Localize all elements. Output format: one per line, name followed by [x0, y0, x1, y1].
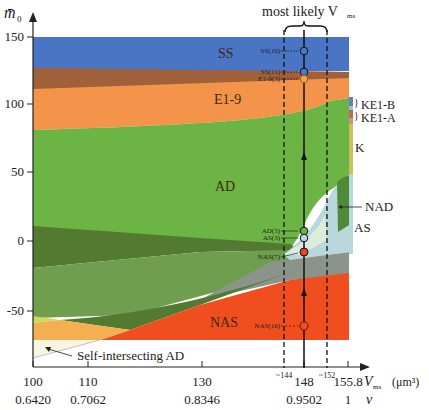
region-label-e1-9: E1-9 — [214, 92, 241, 107]
x-tick-label: 100 — [23, 374, 43, 389]
x-ticks: 100 0.6420 110 0.7062 130 0.8346 148 0.9… — [15, 361, 363, 407]
most-likely-brace — [285, 21, 327, 32]
y-tick-label: 100 — [5, 96, 25, 111]
side-label-ke1a: KE1-A — [361, 111, 396, 125]
y-tick-label: 0 — [18, 233, 25, 248]
svg-text:NAS(10): NAS(10) — [254, 322, 280, 330]
strip-blue — [349, 97, 353, 106]
top-annotation-sub: ms — [347, 12, 355, 20]
x-tick-label: 130 — [192, 374, 212, 389]
dashed-marker-label: ~144 — [276, 371, 292, 380]
x-tick-label: 148 — [294, 374, 314, 389]
y-axis-label-sub: 0 — [17, 14, 22, 24]
side-label-as: AS — [354, 220, 371, 235]
top-annotation: most likely V — [262, 4, 338, 19]
strip-lightblue — [349, 106, 353, 110]
side-label-self-intersecting: Self-intersecting AD — [77, 348, 184, 363]
x-axis-unit: (μm³) — [392, 375, 419, 389]
region-label-nas: NAS — [210, 315, 238, 330]
nu-tick-label: 0.9502 — [286, 392, 322, 407]
strip-as — [349, 174, 353, 254]
strip-k — [349, 124, 353, 174]
side-label-ke1b: KE1-B — [361, 98, 395, 112]
region-nad — [337, 176, 349, 232]
nu-tick-label: 0.7062 — [70, 392, 106, 407]
nu-tick-label: 1 — [345, 392, 352, 407]
svg-text:SS(10): SS(10) — [261, 47, 281, 55]
region-label-ad: AD — [215, 179, 235, 194]
nu-axis-label: ν — [366, 392, 373, 407]
y-axis-label: m̄ — [4, 4, 16, 21]
nu-tick-label: 0.8346 — [184, 392, 220, 407]
dashed-marker-label: ~152 — [319, 371, 335, 380]
x-tick-label: 155.8 — [333, 374, 362, 389]
svg-text:E1-9(3): E1-9(3) — [258, 75, 280, 83]
svg-text:AS(3): AS(3) — [263, 234, 281, 242]
svg-text:NAS(7): NAS(7) — [258, 253, 281, 261]
side-label-nad: NAD — [365, 199, 393, 214]
brace-ke1a: } — [354, 110, 359, 121]
y-tick-label: -50 — [7, 303, 24, 318]
regions — [33, 37, 353, 358]
x-tick-label: 110 — [78, 374, 97, 389]
strip-brown — [349, 110, 353, 118]
brace-ke1b: } — [354, 97, 359, 108]
nu-tick-label: 0.6420 — [15, 392, 51, 407]
x-axis-label-sub: ms — [373, 383, 381, 391]
region-label-ss: SS — [218, 46, 234, 61]
y-ticks: 150 100 50 0 -50 — [5, 29, 34, 318]
strip-pink — [349, 118, 353, 124]
y-tick-label: 50 — [11, 164, 24, 179]
phase-diagram: m̄ 0 150 100 50 0 -50 100 0.6420 110 0.7… — [0, 0, 429, 410]
side-label-k: K — [355, 140, 365, 155]
y-tick-label: 150 — [5, 29, 25, 44]
